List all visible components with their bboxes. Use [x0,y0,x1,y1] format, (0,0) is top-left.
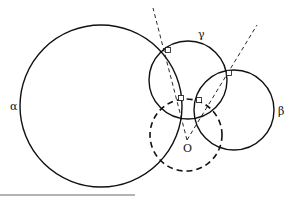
circle-orthogonal-circle [150,99,222,171]
circle-label-gamma: γ [198,28,205,41]
point-label-o: O [183,142,192,155]
circle-alpha [20,25,182,187]
right-angle-mark-0 [166,48,171,53]
circle-gamma [149,41,227,119]
dashed-lines-group [153,8,257,140]
circle-label-beta: β [278,105,284,118]
circle-label-alpha: α [10,100,18,113]
right-angle-mark-1 [227,71,232,76]
circle-beta [194,70,274,150]
right-angle-mark-2 [179,96,184,101]
right-angle-mark-3 [197,98,202,103]
circles-group [20,25,274,187]
geometry-diagram: α γ β O [0,0,295,197]
line-o-alpha-gamma [153,8,187,140]
